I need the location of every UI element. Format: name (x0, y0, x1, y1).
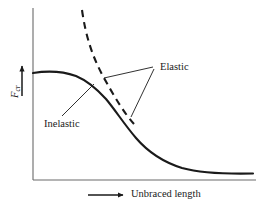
inelastic-leader (62, 84, 94, 116)
plot-svg (0, 0, 269, 212)
figure-canvas: Elastic Inelastic Unbraced length Fcr (0, 0, 269, 212)
elastic-leader-lower (131, 69, 154, 117)
elastic-leader-upper (104, 67, 153, 78)
y-axis-label-symbol: F (9, 92, 20, 98)
x-axis-label: Unbraced length (131, 189, 201, 200)
y-axis-label: Fcr (10, 85, 21, 98)
annotation-label-inelastic: Inelastic (44, 119, 80, 130)
euler-dashed-curve (82, 10, 134, 124)
annotation-label-elastic: Elastic (160, 62, 189, 73)
y-axis-label-subscript: cr (13, 85, 22, 91)
